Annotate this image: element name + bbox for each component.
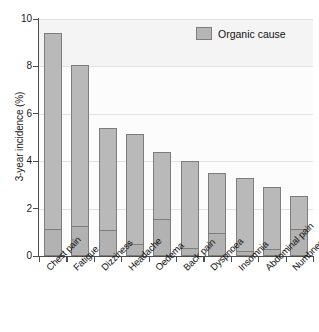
x-axis-tick (39, 257, 40, 262)
x-axis-tick (313, 257, 314, 262)
gridline (39, 19, 313, 20)
y-axis-tick (33, 66, 39, 67)
y-axis-line (38, 18, 39, 257)
y-axis-tick (33, 113, 39, 114)
legend-swatch-organic-cause (196, 27, 212, 40)
legend: Organic cause (196, 27, 286, 40)
y-axis-tick-label: 8 (6, 61, 32, 71)
y-axis-tick-label: 2 (6, 204, 32, 214)
y-axis-title: 3-year incidence (%) (14, 57, 25, 217)
bar (44, 33, 62, 256)
bar-chart: 3-year incidence (%) 0246810 Chest painF… (0, 0, 319, 332)
y-axis-tick-label: 0 (6, 251, 32, 261)
y-axis-tick-label: 6 (6, 109, 32, 119)
x-axis-tick (94, 257, 95, 262)
y-axis-tick (33, 19, 39, 20)
legend-label-organic-cause: Organic cause (218, 28, 286, 40)
x-axis-tick (231, 257, 232, 262)
bar (126, 134, 144, 256)
bar (181, 161, 199, 256)
bar (99, 128, 117, 256)
y-axis-tick (33, 161, 39, 162)
plot-area (39, 19, 313, 256)
y-axis-tick-label: 4 (6, 156, 32, 166)
y-axis-tick-label: 10 (6, 14, 32, 24)
x-axis-tick (176, 257, 177, 262)
bar (71, 65, 89, 256)
y-axis-tick (33, 208, 39, 209)
